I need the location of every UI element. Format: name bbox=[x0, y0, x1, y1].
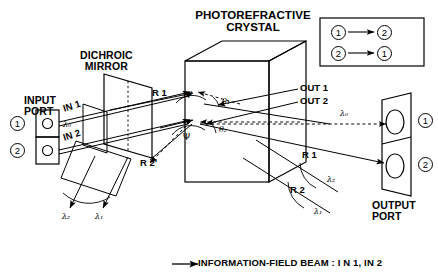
output-port-label-line2: PORT bbox=[372, 211, 416, 222]
beam-lambda2-right-label: λ₂ bbox=[327, 176, 335, 184]
input-channel-1-label: 1 bbox=[15, 118, 20, 129]
beam-r2-right-label: R 2 bbox=[290, 185, 305, 195]
output-wavelength-label: λ₀ bbox=[340, 110, 348, 118]
angle-theta1-label: θ₁ bbox=[222, 98, 230, 106]
dichroic-mirror-plate bbox=[104, 74, 152, 158]
output-channel-1-label: 1 bbox=[423, 115, 428, 126]
input-wavelength-label: λ₀ bbox=[63, 121, 71, 129]
legend-row1-to-badge: 2 bbox=[377, 25, 392, 40]
legend-row1-from-label: 1 bbox=[336, 27, 341, 38]
output-port-label: OUTPUT PORT bbox=[372, 200, 416, 222]
beam-lambda1-right-label: λ₁ bbox=[314, 208, 322, 216]
input-channel-2-badge: 2 bbox=[10, 143, 25, 158]
legend-row2-from-badge: 2 bbox=[331, 46, 346, 61]
input-port-label: INPUT PORT bbox=[24, 95, 56, 117]
angle-theta2-label: θ₂ bbox=[219, 126, 227, 134]
legend-row2-to-label: 1 bbox=[382, 48, 387, 59]
leader-out2 bbox=[206, 102, 298, 124]
dichroic-mirror-label: DICHROIC MIRROR bbox=[80, 50, 133, 72]
figure-title-line1: PHOTOREFRACTIVE bbox=[183, 9, 323, 21]
beam-r1-right-label: R 1 bbox=[302, 150, 317, 160]
output-channel-2-badge: 2 bbox=[418, 157, 433, 172]
figure-title: PHOTOREFRACTIVE CRYSTAL bbox=[183, 9, 323, 33]
legend-row2-to-badge: 1 bbox=[377, 46, 392, 61]
beam-out-upper-aux bbox=[204, 104, 330, 124]
figure-title-line2: CRYSTAL bbox=[183, 21, 323, 33]
legend-row1-from-badge: 1 bbox=[331, 25, 346, 40]
beam-out-to-port-2 bbox=[200, 124, 384, 163]
legend-row2-from-label: 2 bbox=[336, 48, 341, 59]
input-port-label-line2: PORT bbox=[24, 106, 56, 117]
figure-canvas: PHOTOREFRACTIVE CRYSTAL DICHROIC MIRROR … bbox=[0, 0, 438, 276]
figure-caption: INFORMATION-FIELD BEAM : I N 1, IN 2 bbox=[198, 258, 382, 268]
beam-lambda1-left bbox=[103, 157, 128, 208]
beam-r2-right bbox=[243, 158, 330, 213]
beam-r1-left-label: R 1 bbox=[152, 88, 167, 98]
beam-lambda2-left-label: λ₂ bbox=[62, 213, 70, 221]
beam-r2p-left-label: R 2' bbox=[140, 158, 157, 168]
dichroic-mirror-label-line2: MIRROR bbox=[80, 61, 133, 72]
angle-arc-lambda-left bbox=[63, 193, 110, 203]
output-port-plate bbox=[382, 93, 411, 196]
beam-out1-label: OUT 1 bbox=[300, 83, 328, 93]
input-port-plate bbox=[36, 110, 59, 164]
beam-lambda1-left-label: λ₁ bbox=[95, 213, 103, 221]
input-channel-1-badge: 1 bbox=[10, 116, 25, 131]
angle-psi-lower-label: Ψ bbox=[183, 133, 190, 142]
beam-out2-label: OUT 2 bbox=[300, 96, 328, 106]
angle-arc-theta2 bbox=[212, 124, 216, 133]
legend-row1-to-label: 2 bbox=[382, 27, 387, 38]
input-channel-2-label: 2 bbox=[15, 145, 20, 156]
photorefractive-crystal bbox=[185, 41, 306, 182]
output-channel-2-label: 2 bbox=[423, 159, 428, 170]
angle-psi-upper-label: Ψ bbox=[185, 91, 192, 100]
output-channel-1-badge: 1 bbox=[418, 113, 433, 128]
